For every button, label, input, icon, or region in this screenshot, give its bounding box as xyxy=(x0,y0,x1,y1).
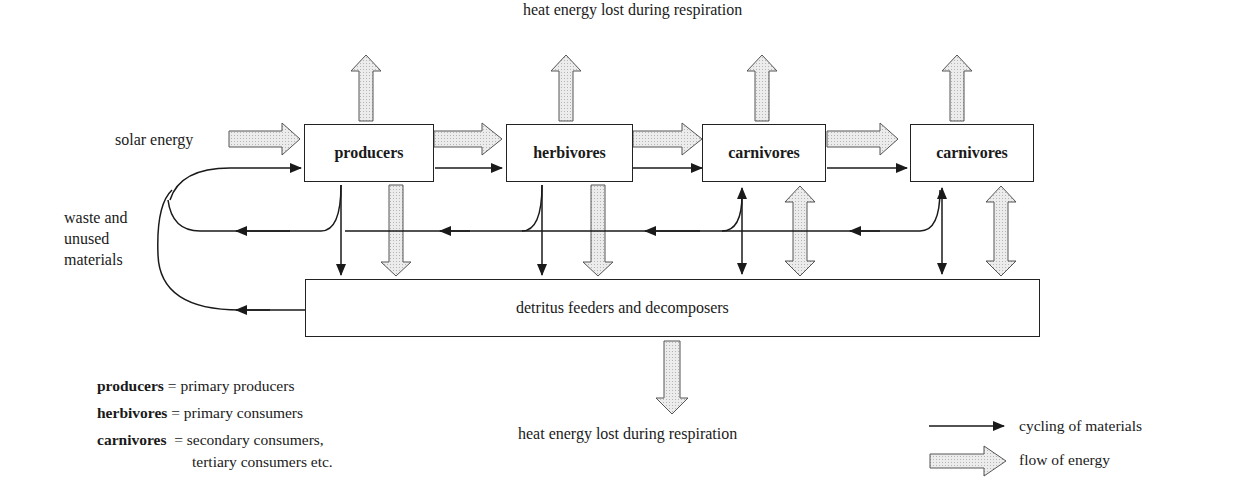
box-label: producers xyxy=(334,144,403,162)
box-label: detritus feeders and decomposers xyxy=(516,299,729,317)
definition-carnivores-cont: tertiary consumers etc. xyxy=(192,454,333,470)
legend-energy-arrow-icon xyxy=(930,446,1006,476)
box-carnivores-2: carnivores xyxy=(910,124,1034,182)
heat-arrow-down-detritus xyxy=(656,341,688,414)
box-label: carnivores xyxy=(728,144,800,162)
heat-arrow-up-producers xyxy=(351,55,381,121)
legend-flow-energy-label: flow of energy xyxy=(1019,452,1110,468)
material-arrow-loop-to-producers xyxy=(170,168,301,200)
material-arrow-detritus-return-loop xyxy=(158,190,305,310)
legend-cycling-materials-label: cycling of materials xyxy=(1019,418,1142,434)
energy-arrow-solar xyxy=(229,123,300,155)
box-producers: producers xyxy=(304,124,434,182)
heat-loss-top-label: heat energy lost during respiration xyxy=(523,2,742,18)
waste-materials-label: waste and unused materials xyxy=(64,207,128,270)
box-label: carnivores xyxy=(936,144,1008,162)
waste-return-line xyxy=(345,190,940,231)
heat-arrow-up-carnivores-2 xyxy=(942,55,972,121)
waste-loop-top xyxy=(168,185,341,231)
box-herbivores: herbivores xyxy=(506,124,633,182)
heat-arrow-up-herbivores xyxy=(551,55,581,121)
heat-loss-bottom-label: heat energy lost during respiration xyxy=(518,426,737,442)
energy-arrow-herbivores-to-carnivores xyxy=(633,123,702,155)
box-label: herbivores xyxy=(533,144,606,162)
solar-energy-label: solar energy xyxy=(115,132,193,148)
energy-arrow-carnivores-to-carnivores xyxy=(827,123,898,155)
definition-producers: producers = primary producers xyxy=(97,378,294,394)
box-carnivores-1: carnivores xyxy=(702,124,826,182)
box-detritus-feeders-decomposers: detritus feeders and decomposers xyxy=(305,279,1040,337)
heat-arrow-up-carnivores-1 xyxy=(747,55,777,121)
energy-arrow-carnivores-2-detritus-bidirectional xyxy=(986,186,1016,276)
definition-carnivores: carnivores = secondary consumers, xyxy=(97,432,324,448)
definition-herbivores: herbivores = primary consumers xyxy=(97,405,303,421)
energy-arrow-producers-to-herbivores xyxy=(434,123,502,155)
